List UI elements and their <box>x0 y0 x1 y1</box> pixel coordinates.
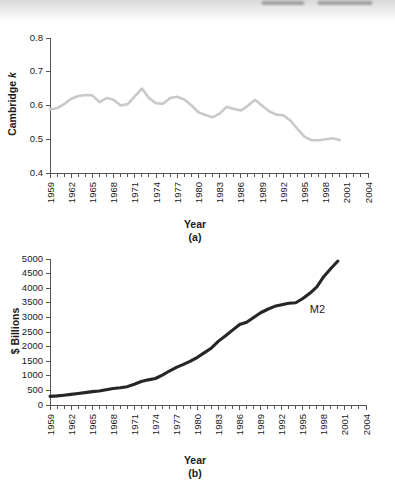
x-tick-label: 1965 <box>87 414 98 435</box>
chart-a-x-axis-title: Year <box>140 218 250 230</box>
data-series-line <box>50 261 338 396</box>
data-series-line <box>50 89 340 141</box>
x-tick-label: 1968 <box>108 414 119 435</box>
figure-b-m2: 0500100015002000250030003500400045005000… <box>0 247 395 494</box>
y-tick-label: 0.8 <box>30 32 43 43</box>
x-tick-label: 1971 <box>129 182 140 203</box>
x-tick-label: 1962 <box>66 414 77 435</box>
y-tick-label: 3500 <box>22 296 43 307</box>
y-tick-label: 0.5 <box>30 133 43 144</box>
x-tick-label: 2004 <box>361 414 372 435</box>
y-tick-label: 0.7 <box>30 65 43 76</box>
x-tick-label: 1983 <box>213 414 224 435</box>
chart-b-plot-area: 0500100015002000250030003500400045005000… <box>0 247 395 455</box>
y-tick-label: 0.6 <box>30 99 43 110</box>
x-tick-label: 2001 <box>341 182 352 203</box>
x-tick-label: 1992 <box>278 182 289 203</box>
x-tick-label: 1995 <box>299 182 310 203</box>
x-tick-label: 1989 <box>257 182 268 203</box>
x-tick-label: 1974 <box>151 182 162 203</box>
y-tick-label: 5000 <box>22 253 43 264</box>
scan-artifact-band <box>0 0 395 22</box>
scan-smudge <box>318 1 372 5</box>
x-tick-label: 1968 <box>108 182 119 203</box>
y-tick-label: 3000 <box>22 311 43 322</box>
chart-a-y-axis-title-symbol: k <box>6 72 18 78</box>
y-tick-label: 500 <box>27 384 43 395</box>
x-tick-label: 1989 <box>255 414 266 435</box>
x-tick-label: 1962 <box>66 182 77 203</box>
x-tick-label: 2004 <box>363 182 374 203</box>
x-tick-label: 1986 <box>234 414 245 435</box>
chart-a-y-axis-title-text: Cambridge <box>6 78 18 136</box>
x-tick-label: 1980 <box>193 182 204 203</box>
x-tick-label: 1977 <box>172 182 183 203</box>
y-tick-label: 1000 <box>22 369 43 380</box>
x-tick-label: 2001 <box>339 414 350 435</box>
series-annotation-label: M2 <box>310 303 325 315</box>
scan-smudge <box>262 1 304 5</box>
x-tick-label: 1977 <box>171 414 182 435</box>
y-tick-label: 2500 <box>22 326 43 337</box>
y-tick-label: 2000 <box>22 340 43 351</box>
x-tick-label: 1959 <box>45 182 56 203</box>
y-tick-label: 4500 <box>22 267 43 278</box>
x-tick-label: 1998 <box>320 182 331 203</box>
y-tick-label: 0 <box>38 399 43 410</box>
x-tick-label: 1986 <box>235 182 246 203</box>
x-tick-label: 1983 <box>214 182 225 203</box>
x-tick-label: 1965 <box>87 182 98 203</box>
chart-a-y-axis-title: Cambridge k <box>6 59 18 149</box>
x-tick-label: 1980 <box>192 414 203 435</box>
chart-a-plot-area: 0.40.50.60.70.81959196219651968197119741… <box>0 22 395 222</box>
x-tick-label: 1995 <box>297 414 308 435</box>
x-tick-label: 1959 <box>45 414 56 435</box>
chart-b-x-axis-title: Year <box>140 454 250 466</box>
chart-b-y-axis-title: $ Billions <box>9 286 21 376</box>
x-tick-label: 1971 <box>129 414 140 435</box>
figure-a-cambridge-k: 0.40.50.60.70.81959196219651968197119741… <box>0 22 395 247</box>
chart-a-panel-caption: (a) <box>140 231 250 243</box>
y-tick-label: 0.4 <box>30 167 43 178</box>
x-tick-label: 1992 <box>276 414 287 435</box>
y-tick-label: 1500 <box>22 355 43 366</box>
x-tick-label: 1974 <box>150 414 161 435</box>
chart-b-panel-caption: (b) <box>140 467 250 479</box>
x-tick-label: 1998 <box>318 414 329 435</box>
y-tick-label: 4000 <box>22 282 43 293</box>
